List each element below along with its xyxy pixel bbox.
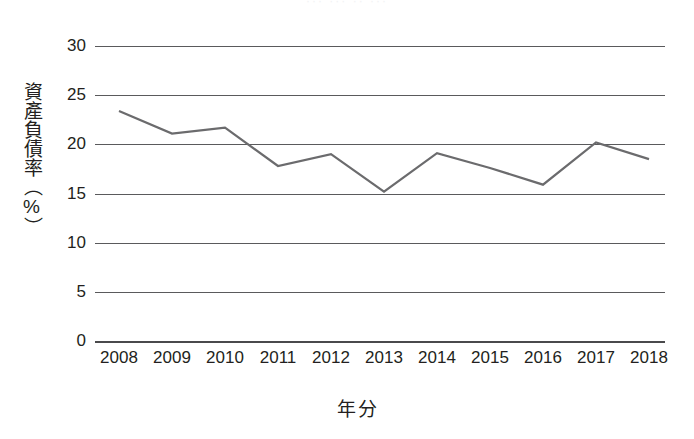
y-axis-title: 資產負債率（%） (14, 82, 42, 236)
x-axis-tick-label: 2017 (566, 348, 626, 368)
x-axis-tick-label: 2010 (195, 348, 255, 368)
x-axis-tick-label: 2011 (248, 348, 308, 368)
x-axis-tick-label: 2014 (407, 348, 467, 368)
plot-area (95, 40, 665, 348)
y-axis-tick-label: 30 (46, 37, 86, 54)
x-axis-tick-label: 2008 (89, 348, 149, 368)
y-axis-tick-labels: 051015202530 (46, 0, 86, 439)
y-axis-tick-label: 20 (46, 135, 86, 152)
series-polyline (119, 111, 649, 192)
x-axis-title-text: 年分 (315, 399, 379, 420)
x-axis-tick-labels: 2008200920102011201220132014201520162017… (0, 348, 694, 372)
x-axis-title: 年分 (0, 394, 694, 421)
y-axis-tick-label: 0 (46, 332, 86, 349)
x-axis-tick-label: 2018 (619, 348, 679, 368)
x-axis-tick-label: 2012 (301, 348, 361, 368)
y-axis-tick-label: 25 (46, 86, 86, 103)
x-axis-tick-label: 2015 (460, 348, 520, 368)
y-axis-tick-label: 10 (46, 234, 86, 251)
cropped-header-text: ··· ··· ·· ··· (0, 0, 694, 6)
y-axis-tick-label: 5 (46, 283, 86, 300)
x-axis-tick-label: 2009 (142, 348, 202, 368)
series-line-layer (95, 40, 665, 348)
y-axis-tick-label: 15 (46, 185, 86, 202)
x-axis-tick-label: 2016 (513, 348, 573, 368)
line-chart: ··· ··· ·· ··· 資產負債率（%） 051015202530 200… (0, 0, 694, 439)
x-axis-tick-label: 2013 (354, 348, 414, 368)
